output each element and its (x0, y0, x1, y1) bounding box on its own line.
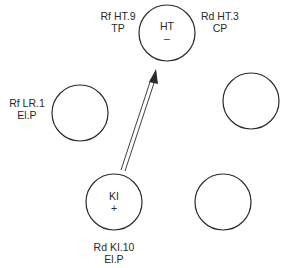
label-line: Rd HT.3 (196, 10, 244, 22)
label-rf-lr1: Rf LR.1 El.P (4, 97, 50, 121)
circle-ht-text: HT – (147, 20, 187, 44)
point-name: HT (147, 20, 187, 32)
label-rf-ht9: Rf HT.9 TP (96, 10, 140, 34)
label-line: Rf LR.1 (4, 97, 50, 109)
label-line: Rf HT.9 (96, 10, 140, 22)
circle-right-lower (195, 174, 251, 230)
arrow-ki-to-ht (121, 79, 155, 171)
meridian-diagram (0, 0, 284, 268)
label-line: TP (96, 22, 140, 34)
label-line: El.P (4, 109, 50, 121)
label-line: Rd KI.10 (88, 241, 140, 253)
label-line: CP (196, 22, 244, 34)
circle-right-upper (223, 73, 279, 129)
point-name: KI (94, 190, 134, 202)
polarity-sign: – (147, 32, 187, 44)
circle-lr (52, 85, 108, 141)
arrowhead-icon (149, 69, 158, 84)
polarity-sign: + (94, 202, 134, 214)
label-line: El.P (88, 253, 140, 265)
circle-ki-text: KI + (94, 190, 134, 214)
label-rd-ht3: Rd HT.3 CP (196, 10, 244, 34)
label-rd-ki10: Rd KI.10 El.P (88, 241, 140, 265)
